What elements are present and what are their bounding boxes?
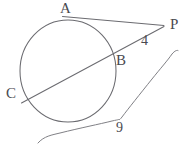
- measure-label-cp: 9: [116, 121, 123, 135]
- point-label-b: B: [116, 53, 126, 68]
- geometry-diagram: A P B C 4 9: [0, 0, 188, 147]
- point-label-a: A: [60, 1, 71, 16]
- point-label-p: P: [170, 17, 178, 32]
- point-label-c: C: [6, 86, 16, 101]
- geometry-canvas: [0, 0, 188, 147]
- measure-label-bp: 4: [141, 34, 148, 48]
- circle-shape: [20, 20, 116, 122]
- measure-brace: [38, 50, 178, 143]
